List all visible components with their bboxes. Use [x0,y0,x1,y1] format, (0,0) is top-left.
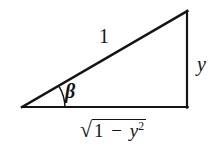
adjacent-side-label: √ 1 − y2 [80,119,146,140]
radicand-variable: y [130,120,138,141]
radicand-minus-sign: − [108,120,125,141]
radicand-one: 1 [94,120,104,141]
radicand-group: 1 − y2 [92,119,146,140]
trigonometry-figure: 1 y β √ 1 − y2 [0,0,217,150]
hypotenuse-label: 1 [99,26,109,46]
angle-beta-label: β [65,81,75,101]
radical-sign-icon: √ [80,120,92,141]
radicand-exponent: 2 [138,120,144,133]
opposite-side-label: y [197,54,206,74]
